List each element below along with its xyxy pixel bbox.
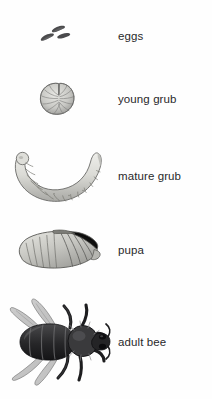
pupa-icon <box>9 221 109 279</box>
stage-label-young-grub: young grub <box>118 93 177 105</box>
eggs-illustration-cell <box>0 19 118 53</box>
young-grub-icon <box>34 77 84 121</box>
stage-row-mature-grub: mature grub <box>0 140 212 212</box>
stage-label-mature-grub: mature grub <box>118 170 181 182</box>
adult-bee-illustration-cell <box>0 294 118 390</box>
bee-life-cycle-diagram: eggs <box>0 0 212 399</box>
pupa-label-cell: pupa <box>118 244 212 256</box>
eggs-icon <box>32 19 86 53</box>
eggs-label-cell: eggs <box>118 30 212 42</box>
stage-row-pupa: pupa <box>0 218 212 282</box>
stage-row-eggs: eggs <box>0 14 212 58</box>
young-grub-illustration-cell <box>0 77 118 121</box>
stage-label-pupa: pupa <box>118 244 144 256</box>
stage-label-adult-bee: adult bee <box>118 336 166 348</box>
young-grub-label-cell: young grub <box>118 93 212 105</box>
adult-bee-icon <box>6 294 112 390</box>
adult-bee-label-cell: adult bee <box>118 336 212 348</box>
mature-grub-label-cell: mature grub <box>118 170 212 182</box>
stage-row-adult-bee: adult bee <box>0 292 212 392</box>
stage-row-young-grub: young grub <box>0 74 212 124</box>
mature-grub-icon <box>7 142 111 210</box>
stage-label-eggs: eggs <box>118 30 143 42</box>
pupa-illustration-cell <box>0 221 118 279</box>
mature-grub-illustration-cell <box>0 142 118 210</box>
